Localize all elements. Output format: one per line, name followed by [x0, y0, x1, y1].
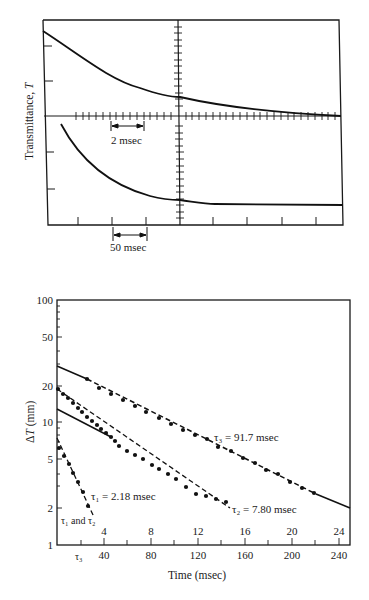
tau1-tau2-axis-label: τ₁ and τ₂ [61, 515, 95, 526]
svg-text:8: 8 [148, 525, 154, 537]
scale-bar-2msec [111, 121, 144, 131]
svg-text:4: 4 [101, 525, 107, 537]
top-bottom-ticks [78, 217, 316, 225]
svg-text:1: 1 [48, 539, 54, 551]
x-tick-labels-upper: 4 8 12 16 20 24 [101, 525, 345, 537]
scale-bar-2msec-label: 2 msec [111, 134, 142, 146]
y-tick-labels: 100 50 20 10 5 2 1 [37, 294, 54, 551]
bottom-panel-frame [57, 300, 350, 545]
scale-bar-50msec-label: 50 msec [110, 241, 146, 253]
x-tick-labels-lower: 40 80 120 160 200 240 [99, 549, 348, 561]
svg-text:5: 5 [48, 453, 54, 465]
y-axis-title: ΔT (mm) [24, 401, 37, 443]
svg-text:24: 24 [334, 525, 346, 537]
svg-text:2: 2 [48, 502, 54, 514]
figure: 2 msec 50 msec Transmittance, T [0, 0, 369, 600]
svg-text:240: 240 [331, 549, 348, 561]
lower-decay-trace [61, 124, 343, 205]
tau3-axis-label: τ₃ [75, 551, 83, 562]
bottom-panel: 100 50 20 10 5 2 1 4 8 12 16 20 24 40 80… [24, 294, 350, 582]
svg-text:10: 10 [42, 416, 54, 428]
tau1-annotation: τ₁ = 2.18 msec [91, 490, 156, 502]
svg-text:50: 50 [42, 331, 54, 343]
svg-text:100: 100 [37, 294, 54, 306]
transmittance-axis-label: Transmittance, T [23, 81, 36, 160]
svg-text:160: 160 [237, 549, 254, 561]
tau2-annotation: τ₂ = 7.80 msec [232, 503, 297, 515]
svg-text:40: 40 [99, 549, 111, 561]
tau3-annotation: τ₃ = 91.7 msec [214, 431, 279, 443]
svg-text:20: 20 [287, 525, 299, 537]
top-panel-frame [43, 20, 343, 225]
x-axis-ticks [81, 538, 339, 545]
svg-text:20: 20 [42, 380, 54, 392]
svg-text:80: 80 [146, 549, 158, 561]
svg-text:120: 120 [190, 549, 207, 561]
svg-text:12: 12 [193, 525, 204, 537]
tau2-data-points [56, 387, 228, 504]
x-axis-title: Time (msec) [168, 569, 226, 582]
svg-text:200: 200 [284, 549, 301, 561]
top-panel: 2 msec 50 msec Transmittance, T [23, 20, 343, 253]
svg-text:16: 16 [240, 525, 252, 537]
scale-bar-50msec [113, 227, 147, 241]
y-axis-ticks [57, 306, 62, 508]
upper-decay-trace [43, 31, 341, 116]
top-vertical-axis [178, 20, 180, 225]
